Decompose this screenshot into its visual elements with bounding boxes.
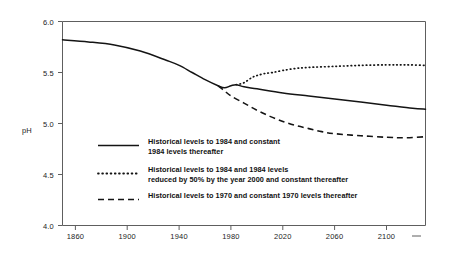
x-tick-label-1980: 1980 <box>222 232 240 241</box>
chart-background <box>0 0 450 262</box>
x-tick-label-2100: 2100 <box>378 232 396 241</box>
x-tick-label-1940: 1940 <box>170 232 188 241</box>
y-tick-label-5-0: 5.0 <box>43 120 54 129</box>
x-tick-label-1860: 1860 <box>67 232 85 241</box>
x-tick-label-2020: 2020 <box>274 232 292 241</box>
x-tick-label-2060: 2060 <box>326 232 344 241</box>
legend-label-1-line-2: 1984 levels thereafter <box>148 147 223 156</box>
chart-canvas: 6.0 5.5 5.0 4.5 4.0 pH 1860 1900 1940 19… <box>0 0 450 262</box>
y-tick-label-4-0: 4.0 <box>43 222 54 231</box>
legend-label-1-line-1: Historical levels to 1984 and constant <box>148 137 281 146</box>
y-tick-label-4-5: 4.5 <box>43 171 54 180</box>
legend-label-3-line-1: Historical levels to 1970 and constant 1… <box>148 191 358 200</box>
ph-projection-chart: 6.0 5.5 5.0 4.5 4.0 pH 1860 1900 1940 19… <box>0 0 450 262</box>
legend-label-2-line-1: Historical levels to 1984 and 1984 level… <box>148 165 288 174</box>
x-tick-label-1900: 1900 <box>118 232 136 241</box>
y-tick-label-5-5: 5.5 <box>43 69 54 78</box>
legend-label-2-line-2: reduced by 50% by the year 2000 and cons… <box>148 175 348 184</box>
y-axis-title: pH <box>22 126 32 135</box>
y-tick-label-6-0: 6.0 <box>43 18 54 27</box>
